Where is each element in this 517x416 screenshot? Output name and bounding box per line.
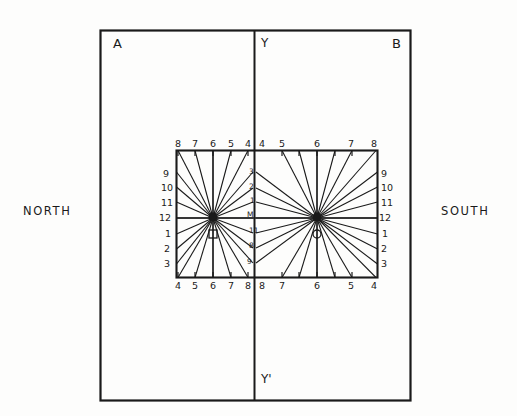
left-side-hour-11: 11 (161, 197, 173, 208)
right-top-hour-6: 6 (314, 138, 320, 149)
left-top-hour-4: 4 (245, 138, 251, 149)
left-top-hour-5: 5 (228, 138, 234, 149)
right-top-hour-7: 7 (348, 138, 354, 149)
right-bottom-hour-7: 7 (279, 280, 285, 291)
corner-label-b: B (392, 36, 401, 51)
dial-plate-rect (177, 151, 378, 278)
right-side-hour-12: 12 (379, 212, 391, 223)
left-side-hour-3: 3 (164, 258, 170, 269)
center-hour-1: 1 (250, 196, 255, 205)
right-top-hour-5: 5 (279, 138, 285, 149)
side-label-north: NORTH (23, 204, 71, 218)
right-side-hour-2: 2 (381, 243, 387, 254)
axis-label-y-top: Y (261, 36, 268, 50)
left-bottom-hour-8: 8 (245, 280, 251, 291)
center-hour-8: 8 (249, 241, 254, 250)
right-bottom-hour-6: 6 (314, 280, 320, 291)
left-side-hour-10: 10 (161, 182, 173, 193)
left-bottom-hour-4: 4 (175, 280, 181, 291)
center-hour-2: 2 (249, 182, 254, 191)
right-bottom-hour-4: 4 (371, 280, 377, 291)
right-side-hour-9: 9 (381, 168, 387, 179)
right-top-hour-4: 4 (259, 138, 265, 149)
center-hour-3: 3 (249, 167, 254, 176)
right-side-hour-3: 3 (381, 258, 387, 269)
left-top-hour-8: 8 (175, 138, 181, 149)
axis-label-y-bottom: Y' (261, 372, 272, 386)
left-bottom-hour-5: 5 (192, 280, 198, 291)
left-top-hour-6: 6 (210, 138, 216, 149)
left-side-hour-1: 1 (165, 228, 171, 239)
center-hour-m: M (247, 210, 253, 219)
corner-label-a: A (113, 36, 122, 51)
right-side-hour-10: 10 (381, 182, 393, 193)
sundial-diagram-svg (0, 0, 517, 416)
left-side-hour-2: 2 (164, 243, 170, 254)
diagram-canvas: A B Y Y' NORTH SOUTH 8 7 6 5 4 4 5 6 7 8… (0, 0, 517, 416)
left-side-hour-9: 9 (163, 168, 169, 179)
right-side-hour-1: 1 (382, 228, 388, 239)
right-bottom-hour-8: 8 (259, 280, 265, 291)
center-hour-11: 11 (249, 226, 259, 235)
right-top-hour-8: 8 (371, 138, 377, 149)
right-side-hour-11: 11 (381, 197, 393, 208)
left-bottom-hour-6: 6 (210, 280, 216, 291)
center-hour-9: 9 (247, 257, 252, 266)
left-side-hour-12: 12 (159, 212, 171, 223)
left-top-hour-7: 7 (192, 138, 198, 149)
right-bottom-hour-5: 5 (348, 280, 354, 291)
side-label-south: SOUTH (441, 204, 489, 218)
left-bottom-hour-7: 7 (228, 280, 234, 291)
